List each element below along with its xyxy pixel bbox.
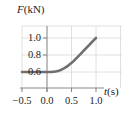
y-axis-symbol: F: [17, 3, 24, 15]
y-axis-label: F(kN): [17, 4, 45, 15]
y-tick-label: 0.6: [28, 67, 41, 78]
y-tick-marks: [43, 38, 47, 72]
y-tick-label: 0.8: [28, 50, 41, 61]
y-tick-label: 1.0: [28, 33, 41, 44]
x-tick-marks: [22, 88, 96, 92]
chart-figure: F(kN) t(s) 1.0 0.8 0.6 −0.5 0.0 0.5 1.0: [0, 0, 133, 116]
x-tick-label: 1.0: [81, 96, 111, 107]
y-axis-unit: (kN): [24, 3, 45, 15]
